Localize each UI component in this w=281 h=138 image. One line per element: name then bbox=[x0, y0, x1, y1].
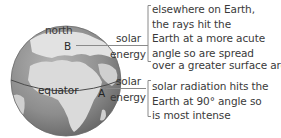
explanation-line: solar radiation hits the bbox=[152, 79, 268, 94]
equator-label: equator bbox=[38, 84, 78, 96]
explanation-line: the rays hit the bbox=[152, 17, 231, 32]
explanation-line: Earth at 90° angle so bbox=[152, 94, 262, 109]
explanation-line: is most intense bbox=[152, 108, 231, 123]
bracket-equator bbox=[148, 81, 151, 117]
ray-a-energy-label: energy bbox=[110, 91, 146, 103]
point-a-label: A bbox=[98, 87, 105, 99]
point-b-label: B bbox=[64, 40, 71, 52]
explanation-line: over a greater surface area. bbox=[152, 58, 281, 73]
explanation-line: Earth at a more acute bbox=[152, 31, 265, 46]
north-label: north bbox=[45, 24, 73, 36]
ray-a-solar-label: solar bbox=[116, 75, 141, 87]
bracket-elsewhere bbox=[148, 6, 151, 62]
explanation-line: elsewhere on Earth, bbox=[152, 2, 255, 17]
ray-b-solar-label: solar bbox=[116, 32, 141, 44]
ray-b-energy-label: energy bbox=[110, 48, 146, 60]
solar-energy-diagram: north B equator A solar energy solar ene… bbox=[0, 0, 281, 138]
